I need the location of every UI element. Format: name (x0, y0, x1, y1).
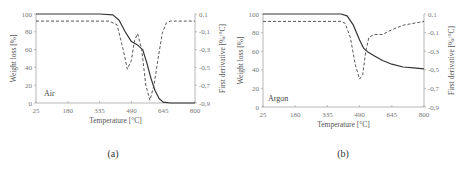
tga-charts: 25180335490645800020406080100-0,9-0,7-0,… (0, 0, 460, 170)
x-axis-label: Temperature [°C] (89, 116, 142, 125)
y-tick-label: 60 (252, 48, 260, 56)
x-tick-label: 180 (290, 111, 301, 119)
x-tick-label: 490 (354, 111, 365, 119)
y2-tick-label: 0,1 (199, 11, 208, 19)
y-tick-label: 20 (252, 85, 260, 93)
x-tick-label: 25 (33, 107, 41, 115)
x-tick-label: 25 (260, 111, 268, 119)
y-tick-label: 40 (252, 66, 260, 74)
y-tick-label: 100 (249, 11, 260, 19)
derivative-line (263, 21, 424, 79)
y-tick-label: 80 (25, 28, 33, 36)
y-axis-label: Weight loss [%] (236, 36, 245, 84)
derivative-line (36, 21, 195, 100)
y-tick-label: 20 (25, 82, 33, 90)
y2-tick-label: -0,9 (199, 100, 211, 108)
x-tick-label: 800 (190, 107, 201, 115)
y2-axis-label: First derivative [%/°C] (447, 26, 456, 95)
x-axis-label: Temperature [°C] (317, 120, 370, 129)
x-tick-label: 645 (158, 107, 169, 115)
weight-loss-line (36, 14, 195, 103)
y2-tick-label: -0,9 (428, 104, 440, 112)
y2-axis-label: First derivative [%/°C] (218, 24, 227, 93)
y2-tick-label: -0,5 (428, 66, 440, 74)
y2-tick-label: -0,1 (428, 29, 440, 37)
y-axis-label: Weight loss [%] (9, 34, 18, 82)
y2-tick-label: 0,1 (428, 11, 437, 19)
y2-tick-label: -0,7 (428, 85, 440, 93)
atmosphere-label: Air (44, 89, 55, 98)
panel-caption: (b) (337, 148, 349, 160)
y-tick-label: 0 (256, 104, 260, 112)
panel-caption: (a) (107, 148, 118, 160)
y2-tick-label: -0,1 (199, 28, 211, 36)
y2-tick-label: -0,3 (199, 46, 211, 54)
y-tick-label: 0 (29, 100, 33, 108)
y-tick-label: 60 (25, 46, 33, 54)
atmosphere-label: Argon (268, 94, 288, 103)
x-tick-label: 800 (419, 111, 430, 119)
y2-tick-label: -0,7 (199, 82, 211, 90)
x-tick-label: 335 (322, 111, 333, 119)
x-tick-label: 335 (94, 107, 105, 115)
y2-tick-label: -0,3 (428, 48, 440, 56)
y-tick-label: 80 (252, 29, 260, 37)
chart-panel-b: 25180335490645800020406080100-0,9-0,7-0,… (236, 11, 456, 161)
y-tick-label: 40 (25, 64, 33, 72)
chart-panel-a: 25180335490645800020406080100-0,9-0,7-0,… (9, 11, 227, 161)
x-tick-label: 180 (63, 107, 74, 115)
x-tick-label: 645 (387, 111, 398, 119)
x-tick-label: 490 (126, 107, 137, 115)
y-tick-label: 100 (22, 11, 33, 19)
y2-tick-label: -0,5 (199, 64, 211, 72)
